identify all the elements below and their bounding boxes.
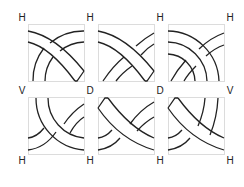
edge-label: D [156, 86, 163, 96]
tile-top-right [168, 31, 224, 81]
edge-label: H [86, 13, 93, 23]
edge-label: D [86, 86, 93, 96]
knot-tiles-canvas [0, 0, 244, 187]
edge-label: V [19, 86, 26, 96]
edge-label: H [226, 13, 233, 23]
edge-label: H [18, 156, 25, 166]
tile-bottom-right [168, 98, 224, 150]
tile-top-left [28, 31, 84, 81]
knot-strands [28, 31, 224, 150]
edge-label: H [156, 156, 163, 166]
tile-bottom-middle [98, 98, 154, 150]
tile-bottom-left [28, 98, 84, 150]
tile-top-middle [98, 31, 154, 81]
edge-label: H [86, 156, 93, 166]
knot-tile-diagram: H H H H V D D V H H H H [0, 0, 244, 187]
edge-label: H [18, 13, 25, 23]
edge-label: H [156, 13, 163, 23]
edge-label: V [227, 86, 234, 96]
edge-label: H [226, 156, 233, 166]
